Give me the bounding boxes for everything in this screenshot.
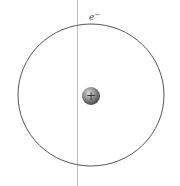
atom-diagram: + e− [0, 0, 180, 186]
nucleus-plus-sign: + [86, 89, 96, 103]
electron-label: e− [89, 11, 100, 22]
electron-charge: − [94, 11, 100, 19]
